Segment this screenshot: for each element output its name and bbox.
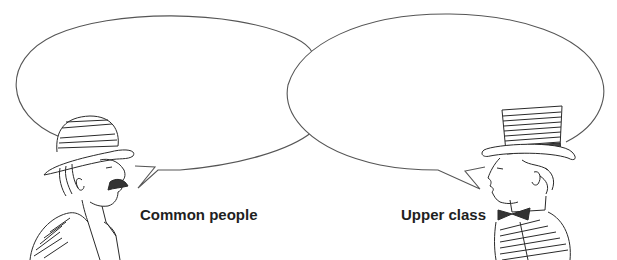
left-speech-bubble: [16, 16, 312, 188]
label-common-people: Common people: [140, 206, 258, 223]
speech-bubble-diagram: Common people Upper class: [0, 0, 617, 260]
common-man-illustration: [30, 116, 134, 260]
bow-tie-icon: [498, 208, 530, 220]
label-upper-class: Upper class: [401, 206, 486, 223]
diagram-drawing: [0, 0, 617, 260]
right-speech-bubble: [287, 14, 604, 189]
